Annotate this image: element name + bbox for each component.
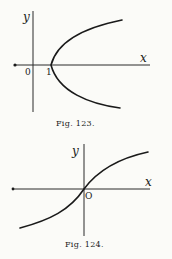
- axis-end-dot: [12, 188, 15, 191]
- origin-label: O: [85, 191, 92, 201]
- figure-123: y x 0 1 Fig. 123.: [13, 10, 150, 128]
- x-axis-label: x: [140, 51, 147, 65]
- parabola-curve: [51, 20, 122, 108]
- tick-label-1: 1: [46, 67, 52, 77]
- y-axis-label: y: [71, 144, 79, 158]
- figure-caption: Fig. 123.: [56, 119, 95, 128]
- y-axis-label: y: [22, 10, 30, 24]
- axis-end-dot: [13, 63, 16, 66]
- figure-page: y x 0 1 Fig. 123. y x O Fig. 124.: [0, 0, 172, 259]
- figure-124: y x O Fig. 124.: [12, 144, 152, 249]
- figure-caption: Fig. 124.: [65, 240, 104, 249]
- x-axis-label: x: [145, 175, 152, 189]
- origin-label: 0: [25, 67, 31, 77]
